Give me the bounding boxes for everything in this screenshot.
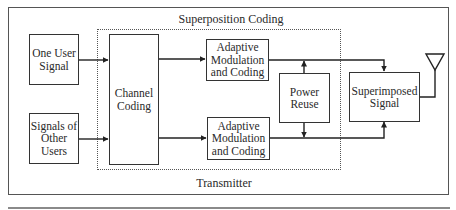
antenna-feed-line: [419, 70, 435, 97]
one-user-signal-block: One User Signal: [29, 34, 79, 85]
arrow-amc-bottom-to-superimposed: [269, 122, 384, 138]
superimposed-signal-block: Superimposed Signal: [349, 72, 420, 122]
other-users-signal-block: Signals of Other Users: [29, 113, 79, 164]
channel-coding-block: Channel Coding: [109, 34, 159, 165]
power-reuse-block: Power Reuse: [279, 73, 330, 123]
adaptive-modulation-coding-top-block: Adaptive Modulation and Coding: [206, 39, 269, 81]
adaptive-modulation-coding-bottom-block: Adaptive Modulation and Coding: [207, 117, 270, 160]
antenna-icon: [426, 54, 444, 70]
arrow-amc-top-to-superimposed: [268, 60, 384, 71]
